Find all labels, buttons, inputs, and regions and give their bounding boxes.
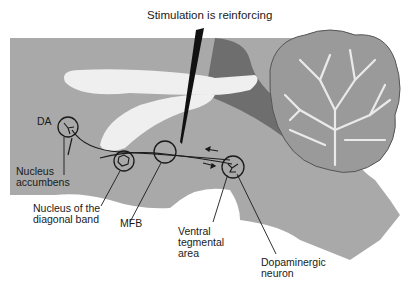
label-dopaminergic-neuron: Dopaminergic neuron	[261, 257, 326, 279]
label-nucleus-diagonal-band: Nucleus of the diagonal band	[33, 203, 100, 225]
label-ventral-tegmental-area: Ventral tegmental area	[178, 226, 224, 259]
diagram-title: Stimulation is reinforcing	[147, 10, 272, 21]
brain-reward-diagram: Stimulation is reinforcing DA Nucleus ac…	[0, 0, 416, 291]
label-mfb: MFB	[120, 218, 142, 229]
label-da: DA	[37, 116, 52, 127]
label-nucleus-accumbens: Nucleus accumbens	[16, 166, 70, 188]
